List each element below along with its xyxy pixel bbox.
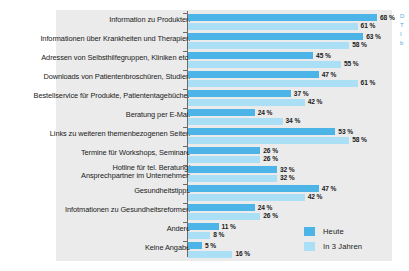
- bar-value-label: 34 %: [286, 116, 301, 125]
- bar-value-label: 63 %: [366, 32, 381, 41]
- chart-row: Bestellservice für Produkte, Patiententa…: [0, 89, 409, 108]
- bar-fill: [188, 109, 255, 116]
- bar-value-label: 58 %: [352, 135, 367, 144]
- bar-fill: [188, 194, 305, 201]
- chart-row: Adressen von Selbsthilfegruppen, Klinike…: [0, 51, 409, 70]
- edge-bleed-line: b: [400, 39, 409, 48]
- bar-fill: [188, 128, 335, 135]
- chart-rows: Information zu Produkten68 %61 %Informat…: [0, 13, 409, 260]
- category-label: Termine für Workshops, Seminare: [0, 149, 190, 157]
- bar-fill: [188, 147, 260, 154]
- bar-fill: [188, 166, 277, 173]
- bar-fill: [188, 52, 313, 59]
- bar-fill: [188, 80, 358, 87]
- bar-fill: [188, 175, 277, 182]
- bar-fill: [188, 232, 210, 239]
- bar-fill: [188, 242, 202, 249]
- page-edge-bleed-text: DTIb: [400, 12, 409, 52]
- bar-value-label: 47 %: [322, 184, 337, 193]
- bar-fill: [188, 156, 260, 163]
- bar-fill: [188, 251, 232, 258]
- bar-value-label: 58 %: [352, 40, 367, 49]
- edge-bleed-line: D: [400, 12, 409, 21]
- category-label: Beratung per E-Mail: [0, 111, 190, 119]
- bar-value-label: 42 %: [308, 192, 323, 201]
- axis-tick: [183, 89, 187, 90]
- axis-tick: [183, 184, 187, 185]
- chart-row: Hotline für tel. Beratung/ Ansprechpartn…: [0, 165, 409, 184]
- category-label: Andere: [0, 225, 190, 233]
- bar-fill: [188, 185, 319, 192]
- bar-value-label: 37 %: [294, 89, 309, 98]
- category-label: Adressen von Selbsthilfegruppen, Klinike…: [0, 54, 190, 62]
- category-label: Downloads von Patientenbroschüren, Studi…: [0, 73, 190, 81]
- axis-tick: [183, 70, 187, 71]
- bar-value-label: 24 %: [258, 108, 273, 117]
- axis-tick: [183, 127, 187, 128]
- axis-tick: [183, 165, 187, 166]
- category-label: Bestellservice für Produkte, Patiententa…: [0, 92, 190, 100]
- legend-label-heute: Heute: [323, 227, 344, 236]
- bar-fill: [188, 118, 283, 125]
- bar-value-label: 8 %: [213, 230, 224, 239]
- chart-row: Downloads von Patientenbroschüren, Studi…: [0, 70, 409, 89]
- bar-value-label: 61 %: [361, 78, 376, 87]
- bottom-gutter: [0, 261, 409, 271]
- bar-value-label: 53 %: [338, 127, 353, 136]
- bar-value-label: 47 %: [322, 70, 337, 79]
- chart-row: Gesundheitstipps47 %42 %: [0, 184, 409, 203]
- axis-tick: [183, 108, 187, 109]
- category-label: Gesundheitstipps: [0, 187, 190, 195]
- bar-value-label: 68 %: [380, 13, 395, 22]
- bar-fill: [188, 223, 219, 230]
- legend-label-in-3-jahren: In 3 Jahren: [323, 242, 362, 251]
- edge-bleed-line: T: [400, 21, 409, 30]
- axis-tick: [183, 13, 187, 14]
- bar-value-label: 61 %: [361, 21, 376, 30]
- chart-row: Informationen über Krankheiten und Thera…: [0, 32, 409, 51]
- chart-legend: Heute In 3 Jahren: [304, 224, 362, 254]
- bar-value-label: 26 %: [263, 211, 278, 220]
- bar-value-label: 16 %: [235, 249, 250, 258]
- chart-row: Links zu weiteren themenbezogenen Seiten…: [0, 127, 409, 146]
- bar-value-label: 42 %: [308, 97, 323, 106]
- bar-fill: [188, 23, 358, 30]
- chart-row: Infotmationen zu Gesundheitsreformen24 %…: [0, 203, 409, 222]
- bar-fill: [188, 61, 341, 68]
- legend-item-in-3-jahren: In 3 Jahren: [304, 239, 362, 254]
- category-label: Information zu Produkten: [0, 16, 190, 24]
- edge-bleed-line: I: [400, 30, 409, 39]
- bar-value-label: 55 %: [344, 59, 359, 68]
- legend-swatch-in-3-jahren: [304, 242, 315, 251]
- bar-value-label: 45 %: [316, 51, 331, 60]
- axis-tick: [183, 241, 187, 242]
- category-label: Infotmationen zu Gesundheitsreformen: [0, 206, 190, 214]
- axis-tick: [183, 146, 187, 147]
- bar-fill: [188, 213, 260, 220]
- bar-fill: [188, 90, 291, 97]
- bar-fill: [188, 71, 319, 78]
- axis-tick: [183, 51, 187, 52]
- bar-chart: Information zu Produkten68 %61 %Informat…: [0, 0, 409, 271]
- chart-row: Information zu Produkten68 %61 %: [0, 13, 409, 32]
- bar-value-label: 5 %: [205, 241, 216, 250]
- bar-fill: [188, 204, 255, 211]
- axis-tick: [183, 222, 187, 223]
- legend-item-heute: Heute: [304, 224, 362, 239]
- category-label: Hotline für tel. Beratung/ Ansprechpartn…: [0, 164, 190, 181]
- chart-row: Beratung per E-Mail24 %34 %: [0, 108, 409, 127]
- bar-fill: [188, 99, 305, 106]
- bar-fill: [188, 42, 349, 49]
- bar-fill: [188, 137, 349, 144]
- category-label: Links zu weiteren themenbezogenen Seiten: [0, 130, 190, 138]
- chart-row: Termine für Workshops, Seminare26 %26 %: [0, 146, 409, 165]
- bar-fill: [188, 33, 363, 40]
- bar-value-label: 32 %: [280, 173, 295, 182]
- category-label: Informationen über Krankheiten und Thera…: [0, 35, 190, 43]
- legend-swatch-heute: [304, 227, 315, 236]
- category-label: Keine Angabe: [0, 244, 190, 252]
- bar-fill: [188, 14, 377, 21]
- bar-value-label: 26 %: [263, 154, 278, 163]
- axis-tick: [183, 203, 187, 204]
- axis-tick: [183, 32, 187, 33]
